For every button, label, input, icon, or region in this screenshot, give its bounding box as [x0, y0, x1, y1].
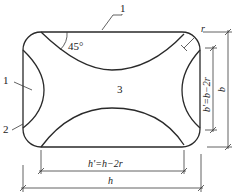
- part-3-label: 3: [117, 83, 123, 95]
- top-arc: [41, 32, 184, 70]
- outer-rounded-rectangle: [23, 32, 200, 147]
- part-1-top-leader: [102, 14, 122, 30]
- radius-leader: [184, 38, 194, 48]
- part-1-top-label: 1: [120, 2, 126, 14]
- left-arc: [23, 50, 44, 128]
- bottom-arc: [41, 108, 184, 147]
- cross-section-diagram: 45° r 1 1 2 3 b b'=b−2r h'=h−2r h: [0, 0, 234, 196]
- dim-h-label: h: [108, 175, 113, 186]
- part-2-leader: [12, 124, 23, 130]
- dim-h-prime-label: h'=h−2r: [88, 158, 123, 169]
- part-1-left-label: 1: [3, 74, 9, 86]
- dim-b-prime-label: b'=b−2r: [201, 77, 212, 112]
- right-arc: [182, 50, 200, 128]
- dim-b-label: b: [216, 87, 227, 92]
- angle-arc: [60, 32, 67, 50]
- part-2-label: 2: [3, 123, 9, 135]
- angle-label: 45°: [68, 40, 83, 52]
